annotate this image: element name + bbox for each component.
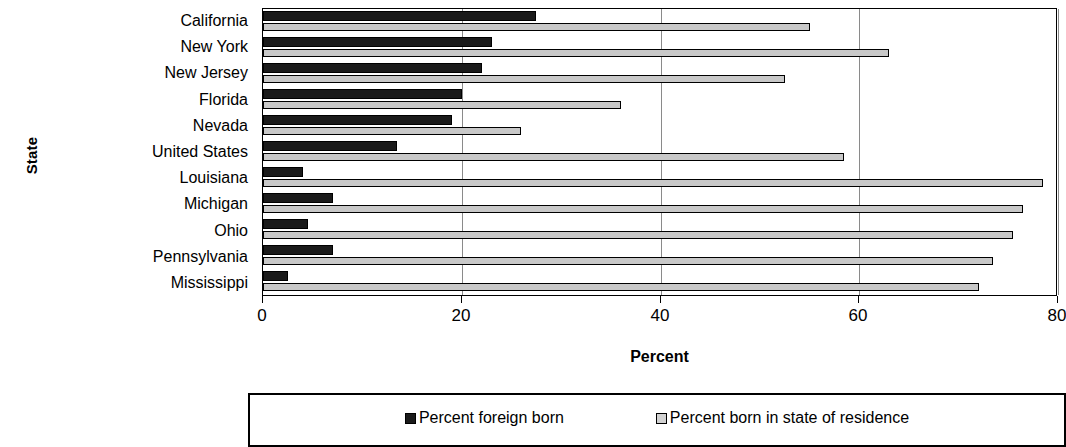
x-axis-tick-mark [262, 296, 263, 303]
bar-percent-born-in-state [263, 153, 844, 161]
bar-percent-born-in-state [263, 101, 621, 109]
bar-percent-foreign-born [263, 141, 397, 151]
plot-area [262, 8, 1057, 296]
bar-percent-foreign-born [263, 219, 308, 229]
bar-percent-foreign-born [263, 89, 462, 99]
bar-group [263, 9, 1056, 35]
legend-label: Percent foreign born [419, 409, 564, 427]
bar-group [263, 191, 1056, 217]
y-axis-category-labels: CaliforniaNew YorkNew JerseyFloridaNevad… [60, 8, 256, 296]
y-axis-category-label: Nevada [60, 113, 256, 139]
legend-item: Percent foreign born [405, 409, 564, 427]
chart-legend: Percent foreign bornPercent born in stat… [248, 393, 1066, 447]
x-axis-tick-mark [461, 296, 462, 303]
bar-rows [263, 9, 1056, 295]
bar-percent-born-in-state [263, 179, 1043, 187]
x-axis-tick-mark [1057, 296, 1058, 303]
gridline [1058, 9, 1059, 295]
bar-group [263, 87, 1056, 113]
bar-percent-born-in-state [263, 205, 1023, 213]
y-axis-category-label: Ohio [60, 218, 256, 244]
bar-percent-foreign-born [263, 63, 482, 73]
bar-percent-born-in-state [263, 283, 979, 291]
bar-percent-born-in-state [263, 49, 889, 57]
x-axis-tick-label: 0 [257, 306, 266, 326]
legend-label: Percent born in state of residence [670, 409, 909, 427]
bar-percent-foreign-born [263, 193, 333, 203]
bar-group [263, 243, 1056, 269]
x-axis-tick-label: 60 [849, 306, 868, 326]
bar-group [263, 61, 1056, 87]
y-axis-category-label: Michigan [60, 191, 256, 217]
bar-percent-foreign-born [263, 11, 536, 21]
bar-group [263, 113, 1056, 139]
bar-group [263, 139, 1056, 165]
x-axis-tick-mark [660, 296, 661, 303]
y-axis-category-label: Florida [60, 87, 256, 113]
x-axis-title-text: Percent [630, 348, 689, 365]
y-axis-category-label: Pennsylvania [60, 244, 256, 270]
legend-swatch-foreign-icon [405, 413, 416, 424]
x-axis-tick-label: 80 [1048, 306, 1066, 326]
y-axis-category-label: California [60, 8, 256, 34]
bar-group [263, 269, 1056, 295]
y-axis-category-label: Mississippi [60, 270, 256, 296]
bar-chart: State CaliforniaNew YorkNew JerseyFlorid… [0, 0, 1066, 447]
bar-percent-foreign-born [263, 271, 288, 281]
x-axis-tick-label: 40 [651, 306, 670, 326]
y-axis-category-label: New York [60, 34, 256, 60]
legend-swatch-instate-icon [656, 413, 667, 424]
bar-percent-foreign-born [263, 37, 492, 47]
bar-percent-born-in-state [263, 75, 785, 83]
bar-percent-foreign-born [263, 167, 303, 177]
x-axis-tick-label: 20 [452, 306, 471, 326]
bar-percent-born-in-state [263, 231, 1013, 239]
bar-percent-born-in-state [263, 257, 993, 265]
x-axis-ticks [262, 296, 1057, 304]
legend-item: Percent born in state of residence [656, 409, 909, 427]
y-axis-title: State [2, 95, 62, 215]
y-axis-category-label: Louisiana [60, 165, 256, 191]
y-axis-title-text: State [24, 136, 41, 174]
bar-percent-born-in-state [263, 23, 810, 31]
bar-percent-born-in-state [263, 127, 521, 135]
x-axis-title: Percent [262, 348, 1057, 366]
y-axis-category-label: United States [60, 139, 256, 165]
bar-percent-foreign-born [263, 115, 452, 125]
bar-group [263, 165, 1056, 191]
y-axis-category-label: New Jersey [60, 60, 256, 86]
bar-group [263, 35, 1056, 61]
bar-percent-foreign-born [263, 245, 333, 255]
legend-items: Percent foreign bornPercent born in stat… [250, 409, 1064, 427]
x-axis-tick-mark [858, 296, 859, 303]
bar-group [263, 217, 1056, 243]
